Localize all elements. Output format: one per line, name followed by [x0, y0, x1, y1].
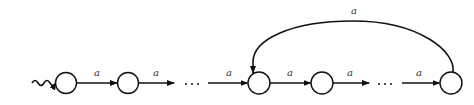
edge-label-ellipsis-3: a [226, 67, 232, 78]
state-5 [440, 72, 462, 94]
edge-label-5-3-arc: a [351, 5, 357, 16]
state-2 [118, 73, 139, 94]
edge-label-4-ellipsis: a [347, 67, 353, 78]
ellipsis-2 [378, 83, 392, 85]
start-arrow [32, 81, 56, 86]
edge-5-3-arc [253, 21, 453, 73]
edge-label-1-2: a [94, 67, 100, 78]
edge-label-ellipsis-5: a [416, 67, 422, 78]
state-3 [248, 72, 270, 94]
edge-label-3-4: a [287, 67, 293, 78]
automaton-diagram: a a a a a a a [0, 0, 474, 105]
ellipsis-1 [185, 83, 199, 85]
state-4 [311, 72, 333, 94]
edge-label-2-ellipsis: a [153, 67, 159, 78]
state-1 [56, 73, 77, 94]
